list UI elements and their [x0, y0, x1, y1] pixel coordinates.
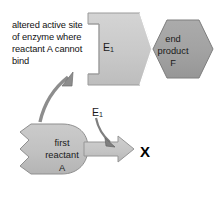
enzyme-label-text: E — [103, 41, 110, 53]
enzyme-label: E1 — [103, 41, 114, 55]
end-product-label: end product F — [151, 33, 195, 69]
enzyme-label-subscript: 1 — [110, 45, 114, 54]
catalyst-label-subscript: 1 — [99, 110, 103, 119]
catalyst-label: E1 — [92, 106, 103, 120]
catalyst-label-text: E — [92, 106, 99, 118]
blocked-reaction-marker: X — [140, 143, 150, 161]
altered-active-site-annotation: altered active site of enzyme where reac… — [12, 20, 106, 68]
allosteric-pointer-arrow — [40, 72, 73, 122]
first-reactant-label: first reactant A — [38, 137, 86, 174]
diagram-canvas: altered active site of enzyme where reac… — [0, 0, 216, 200]
